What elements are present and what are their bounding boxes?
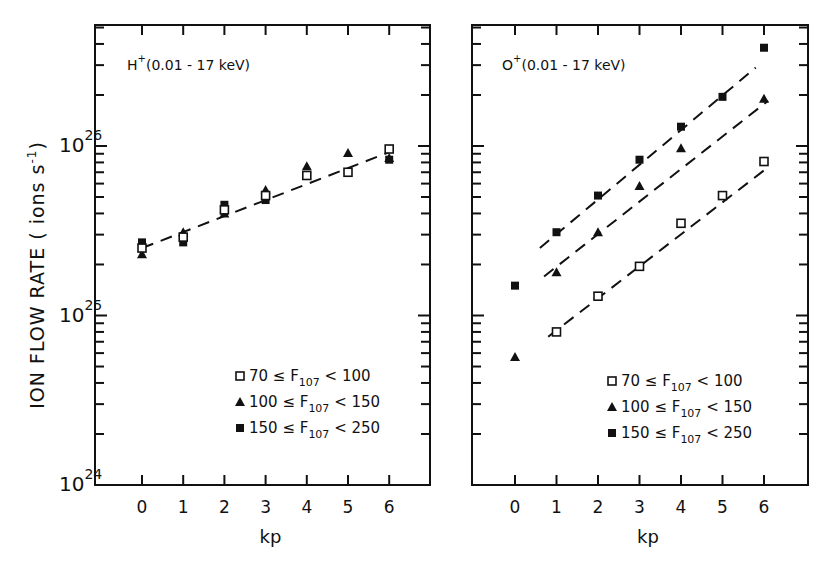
legend-label: 70 ≤ F107 < 100 (621, 372, 743, 394)
data-point (635, 181, 645, 190)
plot-frame (472, 25, 808, 485)
x-axis-label: kp (260, 526, 282, 547)
legend-label: 150 ≤ F107 < 250 (621, 424, 752, 446)
legend-label: 150 ≤ F107 < 250 (249, 419, 380, 441)
fit-line (548, 167, 768, 337)
data-point (510, 352, 520, 361)
data-point (344, 168, 352, 176)
data-point (553, 228, 561, 236)
data-point (138, 244, 146, 252)
data-point (760, 44, 768, 52)
x-tick-label: 1 (178, 497, 189, 517)
legend-marker (236, 372, 244, 380)
data-point (220, 206, 228, 214)
x-tick-label: 4 (301, 497, 312, 517)
x-tick-label: 6 (759, 497, 770, 517)
data-point (553, 328, 561, 336)
y-tick-label: 1024 (59, 466, 102, 496)
data-point (303, 171, 311, 179)
panel-title: O+(0.01 - 17 keV) (502, 53, 626, 73)
x-tick-label: 6 (384, 497, 395, 517)
x-tick-label: 2 (219, 497, 230, 517)
data-point (385, 145, 393, 153)
x-tick-label: 1 (551, 497, 562, 517)
data-point (677, 123, 685, 131)
x-tick-label: 4 (676, 497, 687, 517)
legend-marker (608, 429, 616, 437)
fit-line (544, 101, 768, 277)
panel-title: H+(0.01 - 17 keV) (127, 53, 250, 73)
data-point (511, 282, 519, 290)
data-point (594, 292, 602, 300)
data-point (676, 143, 686, 152)
panel-o-plus: 0123456kpO+(0.01 - 17 keV)70 ≤ F107 < 10… (472, 25, 808, 547)
data-point (594, 192, 602, 200)
data-point (179, 233, 187, 241)
figure: ION FLOW RATE ( ions s-1) 10241025102601… (0, 0, 833, 567)
x-tick-label: 3 (260, 497, 271, 517)
x-tick-label: 5 (343, 497, 354, 517)
x-tick-label: 0 (137, 497, 148, 517)
data-point (343, 148, 353, 157)
data-point (262, 192, 270, 200)
data-point (760, 158, 768, 166)
data-point (677, 219, 685, 227)
plot-frame (95, 25, 430, 485)
x-tick-label: 3 (634, 497, 645, 517)
chart-canvas: ION FLOW RATE ( ions s-1) 10241025102601… (0, 0, 833, 567)
x-tick-label: 2 (593, 497, 604, 517)
panel-h-plus: 1024102510260123456kpH+(0.01 - 17 keV)70… (59, 25, 430, 547)
legend-label: 70 ≤ F107 < 100 (249, 367, 371, 389)
legend-marker (236, 424, 244, 432)
data-point (636, 156, 644, 164)
data-point (759, 94, 769, 103)
x-tick-label: 5 (717, 497, 728, 517)
legend-marker (235, 397, 245, 406)
legend-label: 100 ≤ F107 < 150 (621, 398, 752, 420)
y-axis-label: ION FLOW RATE ( ions s-1) (25, 141, 48, 409)
data-point (719, 93, 727, 101)
data-point (719, 192, 727, 200)
data-point (593, 227, 603, 236)
data-point (636, 262, 644, 270)
legend-marker (607, 402, 617, 411)
data-point (302, 161, 312, 170)
legend-label: 100 ≤ F107 < 150 (249, 393, 380, 415)
legend-marker (608, 377, 616, 385)
x-axis-label: kp (637, 526, 659, 547)
x-tick-label: 0 (510, 497, 521, 517)
